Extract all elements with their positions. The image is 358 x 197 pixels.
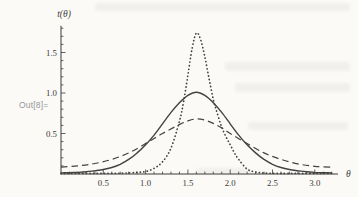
solid-medium-curve <box>61 92 332 173</box>
x-tick-label: 1.5 <box>182 178 194 188</box>
y-tick-label: 0.5 <box>46 129 58 139</box>
output-cell-label: Out[8]= <box>19 100 49 110</box>
y-axis-label: t(θ) <box>57 9 71 20</box>
plot-canvas: 0.51.01.52.02.53.00.51.01.5 t(θ) θ <box>0 0 358 197</box>
curves <box>61 33 332 174</box>
x-tick-label: 2.5 <box>267 178 279 188</box>
x-tick-label: 3.0 <box>309 178 321 188</box>
dashed-broad-curve <box>61 119 332 167</box>
dotted-narrow-curve <box>61 33 332 174</box>
y-tick-label: 1.0 <box>46 88 58 98</box>
scanned-page: Out[8]= 0.51.01.52.02.53.00.51.01.5 t(θ)… <box>0 0 358 197</box>
x-axis-label: θ <box>346 169 351 179</box>
x-tick-label: 2.0 <box>225 178 237 188</box>
x-tick-label: 1.0 <box>140 178 152 188</box>
x-tick-label: 0.5 <box>98 178 110 188</box>
y-tick-label: 1.5 <box>46 48 58 58</box>
